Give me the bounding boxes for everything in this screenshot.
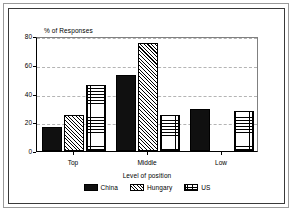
bar-china-middle [116,75,136,151]
y-tick-label-20: 20 [6,120,32,127]
gridline-80 [37,38,257,39]
y-tick-label-60: 60 [6,63,32,70]
x-axis-title: Level of position [0,172,294,179]
y-tick-label-0: 0 [6,149,32,156]
legend-swatch-china [84,184,98,191]
y-tick-mark-60 [33,66,36,67]
y-tick-mark-80 [33,37,36,38]
x-tick-label-top: Top [33,159,113,166]
x-tick-mark-middle [147,152,148,155]
legend-entry-china: China [84,184,118,191]
legend-swatch-us [184,184,198,191]
chart-legend: ChinaHungaryUS [0,184,294,191]
legend-swatch-hungary [130,184,144,191]
legend-entry-hungary: Hungary [130,184,172,191]
y-tick-mark-20 [33,123,36,124]
chart-figure: % of Responses 020406080 TopMiddleLow Le… [0,0,294,213]
bar-hungary-middle [138,43,158,151]
legend-entry-us: US [184,184,210,191]
plot-area [36,37,258,152]
y-tick-mark-40 [33,95,36,96]
y-axis-title: % of Responses [44,27,93,34]
bar-us-middle [160,115,180,151]
legend-label-hungary: Hungary [147,184,172,191]
bar-china-low [190,109,210,151]
y-tick-mark-0 [33,152,36,153]
bar-hungary-top [64,115,84,151]
x-tick-label-low: Low [181,159,261,166]
y-tick-label-80: 80 [6,34,32,41]
bar-us-low [234,111,254,151]
y-tick-label-40: 40 [6,92,32,99]
legend-label-china: China [101,184,118,191]
legend-label-us: US [201,184,210,191]
x-tick-label-middle: Middle [107,159,187,166]
bar-us-top [86,85,106,151]
bar-china-top [42,127,62,151]
x-tick-mark-top [73,152,74,155]
x-tick-mark-low [221,152,222,155]
